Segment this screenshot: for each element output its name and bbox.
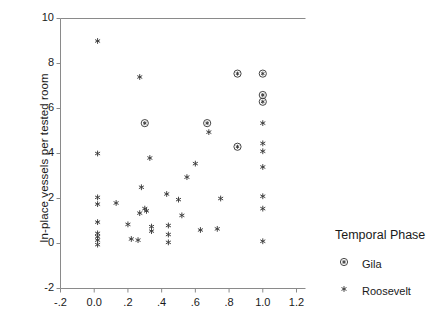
data-point-roosevelt — [260, 120, 265, 126]
data-point-roosevelt — [176, 197, 181, 203]
data-point-gila — [234, 143, 241, 150]
data-point-roosevelt — [149, 228, 154, 234]
data-point-roosevelt — [166, 239, 171, 245]
data-point-roosevelt — [166, 223, 171, 229]
data-point-roosevelt — [215, 226, 220, 232]
data-point-roosevelt — [198, 227, 203, 233]
data-point-roosevelt — [125, 221, 130, 227]
data-point-roosevelt — [260, 206, 265, 212]
legend-label-roosevelt: Roosevelt — [362, 285, 411, 297]
data-point-roosevelt — [95, 201, 100, 207]
data-point-roosevelt — [166, 232, 171, 238]
data-point-gila — [259, 98, 266, 105]
data-point-roosevelt — [139, 184, 144, 190]
data-point-gila — [259, 91, 266, 98]
data-point-gila — [259, 70, 266, 77]
data-point-roosevelt — [95, 151, 100, 157]
data-point-roosevelt — [95, 242, 100, 248]
legend-title: Temporal Phase — [335, 228, 425, 242]
data-point-roosevelt — [147, 155, 152, 161]
data-point-gila — [204, 120, 211, 127]
legend-label-gila: Gila — [362, 258, 382, 270]
data-point-roosevelt — [95, 219, 100, 225]
data-point-roosevelt — [260, 164, 265, 170]
data-point-roosevelt — [260, 148, 265, 154]
data-point-roosevelt — [193, 161, 198, 167]
data-point-roosevelt — [95, 38, 100, 44]
data-point-roosevelt — [137, 210, 142, 216]
data-point-roosevelt — [164, 191, 169, 197]
data-point-roosevelt — [95, 194, 100, 200]
data-point-roosevelt — [260, 193, 265, 199]
data-point-roosevelt — [136, 237, 141, 243]
plot-canvas — [0, 0, 430, 327]
data-point-roosevelt — [137, 74, 142, 80]
data-point-roosevelt — [114, 200, 119, 206]
data-point-roosevelt — [260, 140, 265, 146]
data-point-gila — [234, 70, 241, 77]
data-point-roosevelt — [129, 236, 134, 242]
data-point-roosevelt — [206, 129, 211, 135]
data-point-roosevelt — [184, 174, 189, 180]
scatter-plot-figure: In-place vessels per tested room -202468… — [0, 0, 430, 327]
data-point-roosevelt — [218, 196, 223, 202]
data-point-roosevelt — [260, 238, 265, 244]
data-point-roosevelt — [179, 212, 184, 218]
data-point-gila — [141, 120, 148, 127]
